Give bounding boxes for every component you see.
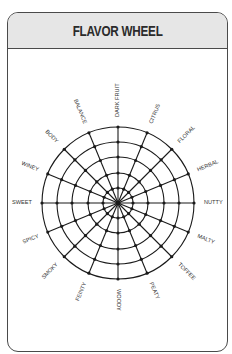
flavor-label-winey: WINEY [21, 160, 40, 173]
rating-point[interactable] [149, 234, 152, 237]
rating-point[interactable] [116, 155, 119, 158]
rating-point[interactable] [192, 201, 195, 204]
rating-point[interactable] [87, 272, 90, 275]
rating-point[interactable] [149, 169, 152, 172]
rating-point[interactable] [93, 145, 96, 148]
rating-point[interactable] [122, 215, 125, 218]
rating-point[interactable] [130, 196, 133, 199]
flavor-label-nutty: NUTTY [204, 199, 223, 205]
rating-point[interactable] [105, 174, 108, 177]
rating-point[interactable] [127, 191, 130, 194]
rating-point[interactable] [159, 184, 162, 187]
rating-point[interactable] [140, 258, 143, 261]
flavor-label-citrus: CITRUS [148, 103, 162, 125]
rating-point[interactable] [144, 213, 147, 216]
flavor-wheel-chart: DARK FRUITCITRUSFLORALHERBALNUTTYMALTYTO… [0, 0, 232, 354]
rating-point[interactable] [73, 158, 76, 161]
rating-point[interactable] [116, 216, 119, 219]
rating-point[interactable] [105, 229, 108, 232]
rating-point[interactable] [173, 178, 176, 181]
rating-point[interactable] [116, 186, 119, 189]
rating-point[interactable] [134, 244, 137, 247]
rating-point[interactable] [144, 190, 147, 193]
rating-point[interactable] [87, 131, 90, 134]
flavor-label-body: BODY [44, 128, 60, 144]
flavor-label-woody: WOODY [116, 289, 122, 311]
rating-point[interactable] [106, 212, 109, 215]
rating-point[interactable] [84, 234, 87, 237]
flavor-label-spicy: SPICY [22, 233, 40, 245]
rating-point[interactable] [138, 180, 141, 183]
rating-point[interactable] [116, 125, 119, 128]
rating-point[interactable] [63, 255, 66, 258]
flavor-label-sweet: SWEET [12, 199, 32, 205]
rating-point[interactable] [134, 159, 137, 162]
wheel-center [116, 201, 121, 206]
rating-point[interactable] [162, 201, 165, 204]
rating-point[interactable] [160, 158, 163, 161]
rating-point[interactable] [170, 255, 173, 258]
rating-point[interactable] [138, 223, 141, 226]
rating-point[interactable] [74, 184, 77, 187]
rating-point[interactable] [89, 190, 92, 193]
rating-point[interactable] [74, 219, 77, 222]
rating-point[interactable] [116, 262, 119, 265]
rating-point[interactable] [111, 188, 114, 191]
rating-point[interactable] [116, 277, 119, 280]
flavor-label-dark-fruit: DARK FRUIT [114, 83, 120, 117]
rating-point[interactable] [116, 231, 119, 234]
rating-point[interactable] [170, 148, 173, 151]
rating-point[interactable] [103, 207, 106, 210]
flavor-label-malty: MALTY [197, 233, 216, 246]
rating-point[interactable] [106, 191, 109, 194]
flavor-label-balance: BALANCE [73, 98, 89, 125]
rating-point[interactable] [187, 172, 190, 175]
rating-point[interactable] [116, 140, 119, 143]
rating-point[interactable] [173, 225, 176, 228]
rating-point[interactable] [145, 272, 148, 275]
rating-point[interactable] [128, 174, 131, 177]
rating-point[interactable] [99, 244, 102, 247]
rating-point[interactable] [187, 230, 190, 233]
rating-point[interactable] [46, 230, 49, 233]
rating-point[interactable] [122, 188, 125, 191]
rating-point[interactable] [145, 131, 148, 134]
rating-point[interactable] [160, 245, 163, 248]
rating-point[interactable] [177, 201, 180, 204]
rating-point[interactable] [60, 178, 63, 181]
rating-point[interactable] [159, 219, 162, 222]
rating-point[interactable] [146, 201, 149, 204]
rating-point[interactable] [116, 171, 119, 174]
flavor-label-peaty: PEATY [149, 281, 162, 300]
rating-point[interactable] [99, 159, 102, 162]
rating-point[interactable] [84, 169, 87, 172]
rating-point[interactable] [60, 225, 63, 228]
rating-point[interactable] [103, 196, 106, 199]
flavor-label-feinty: FEINTY [74, 281, 87, 302]
rating-point[interactable] [111, 215, 114, 218]
rating-point[interactable] [46, 172, 49, 175]
rating-point[interactable] [89, 213, 92, 216]
flavor-label-floral: FLORAL [176, 124, 196, 144]
rating-point[interactable] [55, 201, 58, 204]
rating-point[interactable] [127, 212, 130, 215]
rating-point[interactable] [101, 201, 104, 204]
flavor-label-smoky: SMOKY [40, 261, 59, 280]
rating-point[interactable] [95, 180, 98, 183]
rating-point[interactable] [63, 148, 66, 151]
rating-point[interactable] [128, 229, 131, 232]
rating-point[interactable] [140, 145, 143, 148]
rating-point[interactable] [40, 201, 43, 204]
flavor-label-toffee: TOFFEE [177, 261, 197, 281]
rating-point[interactable] [70, 201, 73, 204]
rating-point[interactable] [131, 201, 134, 204]
rating-point[interactable] [95, 223, 98, 226]
rating-point[interactable] [86, 201, 89, 204]
rating-point[interactable] [93, 258, 96, 261]
rating-point[interactable] [73, 245, 76, 248]
flavor-label-herbal: HERBAL [196, 158, 219, 172]
rating-point[interactable] [116, 247, 119, 250]
rating-point[interactable] [130, 207, 133, 210]
